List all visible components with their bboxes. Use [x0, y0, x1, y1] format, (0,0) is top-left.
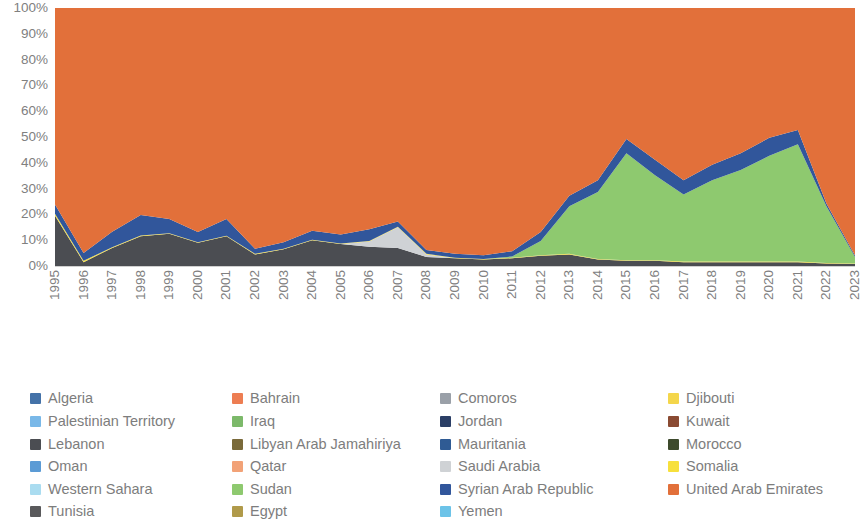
y-axis-tick-label: 100% — [13, 1, 48, 15]
legend-item-label: Western Sahara — [48, 482, 153, 497]
legend-item[interactable]: Lebanon — [30, 437, 104, 452]
legend-swatch-icon — [30, 416, 41, 427]
legend-item-label: Jordan — [458, 414, 502, 429]
x-axis-tick-label: 2002 — [247, 270, 262, 300]
x-axis-tick-label: 2012 — [533, 270, 548, 300]
x-axis-tick-label: 2004 — [304, 270, 319, 300]
legend-item[interactable]: Syrian Arab Republic — [440, 482, 593, 497]
legend-item-label: Somalia — [686, 459, 738, 474]
legend-swatch-icon — [668, 416, 679, 427]
x-axis-tick-label: 1996 — [76, 270, 91, 300]
legend-item-label: Libyan Arab Jamahiriya — [250, 437, 401, 452]
legend-swatch-icon — [668, 484, 679, 495]
legend-item[interactable]: Djibouti — [668, 391, 734, 406]
legend-item[interactable]: Libyan Arab Jamahiriya — [232, 437, 401, 452]
x-axis-tick-label: 2010 — [476, 270, 491, 300]
x-axis-tick-label: 2007 — [390, 270, 405, 300]
x-axis-tick-label: 2003 — [276, 270, 291, 300]
legend-item-label: United Arab Emirates — [686, 482, 823, 497]
x-axis-tick-label: 1995 — [47, 270, 62, 300]
legend-swatch-icon — [440, 484, 451, 495]
legend-item[interactable]: Mauritania — [440, 437, 526, 452]
legend-item[interactable]: Bahrain — [232, 391, 300, 406]
legend-item[interactable]: Somalia — [668, 459, 738, 474]
x-axis-tick-label: 2020 — [761, 270, 776, 300]
x-axis: 1995199619971998199920002001200220032004… — [55, 270, 855, 334]
y-axis-tick-label: 60% — [21, 104, 48, 118]
legend-item-label: Lebanon — [48, 437, 104, 452]
legend-item[interactable]: Oman — [30, 459, 88, 474]
legend-item-label: Qatar — [250, 459, 286, 474]
x-axis-tick-label: 2019 — [733, 270, 748, 300]
legend-item[interactable]: Egypt — [232, 504, 287, 519]
legend-swatch-icon — [232, 506, 243, 517]
legend-item-label: Tunisia — [48, 504, 94, 519]
x-axis-tick-label: 1997 — [104, 270, 119, 300]
legend-item[interactable]: Morocco — [668, 437, 742, 452]
legend-swatch-icon — [440, 506, 451, 517]
x-axis-tick-label: 1998 — [133, 270, 148, 300]
legend-item[interactable]: Algeria — [30, 391, 93, 406]
legend-swatch-icon — [30, 506, 41, 517]
legend-swatch-icon — [232, 416, 243, 427]
y-axis-tick-label: 30% — [21, 182, 48, 196]
legend-swatch-icon — [668, 393, 679, 404]
legend-item[interactable]: Sudan — [232, 482, 292, 497]
legend-swatch-icon — [30, 393, 41, 404]
x-axis-tick-label: 2018 — [704, 270, 719, 300]
y-axis-tick-label: 80% — [21, 53, 48, 67]
legend-item-label: Morocco — [686, 437, 742, 452]
legend-swatch-icon — [30, 484, 41, 495]
legend-item-label: Syrian Arab Republic — [458, 482, 593, 497]
legend-item-label: Kuwait — [686, 414, 730, 429]
x-axis-line — [55, 266, 855, 267]
legend-swatch-icon — [232, 461, 243, 472]
legend-swatch-icon — [440, 461, 451, 472]
x-axis-tick-label: 2009 — [447, 270, 462, 300]
legend-item-label: Iraq — [250, 414, 275, 429]
x-axis-tick-label: 2015 — [618, 270, 633, 300]
legend-item[interactable]: Kuwait — [668, 414, 730, 429]
x-axis-tick-label: 2013 — [561, 270, 576, 300]
legend-swatch-icon — [440, 416, 451, 427]
legend-item-label: Egypt — [250, 504, 287, 519]
legend-item[interactable]: Iraq — [232, 414, 275, 429]
legend-item[interactable]: Western Sahara — [30, 482, 153, 497]
x-axis-tick-label: 2008 — [418, 270, 433, 300]
legend-swatch-icon — [30, 461, 41, 472]
legend-item-label: Yemen — [458, 504, 503, 519]
y-axis: 100%90%80%70%60%50%40%30%20%10%0% — [0, 0, 52, 272]
y-axis-tick-label: 70% — [21, 78, 48, 92]
x-axis-tick-label: 2021 — [790, 270, 805, 300]
plot-wrapper: 100%90%80%70%60%50%40%30%20%10%0% 199519… — [0, 0, 864, 340]
legend-item-label: Algeria — [48, 391, 93, 406]
legend-item-label: Oman — [48, 459, 88, 474]
legend-swatch-icon — [668, 439, 679, 450]
x-axis-tick-label: 2017 — [676, 270, 691, 300]
legend-item-label: Bahrain — [250, 391, 300, 406]
legend-item[interactable]: Qatar — [232, 459, 286, 474]
legend-item-label: Sudan — [250, 482, 292, 497]
legend-swatch-icon — [668, 461, 679, 472]
x-axis-tick-label: 1999 — [161, 270, 176, 300]
x-axis-tick-label: 2014 — [590, 270, 605, 300]
x-axis-tick-label: 2006 — [361, 270, 376, 300]
y-axis-tick-label: 40% — [21, 156, 48, 170]
legend-item[interactable]: Saudi Arabia — [440, 459, 540, 474]
legend-item[interactable]: Tunisia — [30, 504, 94, 519]
legend-item-label: Mauritania — [458, 437, 526, 452]
legend-item[interactable]: United Arab Emirates — [668, 482, 823, 497]
x-axis-tick-label: 2011 — [504, 270, 519, 299]
x-axis-tick-label: 2022 — [818, 270, 833, 300]
legend-item-label: Palestinian Territory — [48, 414, 175, 429]
legend-item-label: Djibouti — [686, 391, 734, 406]
legend-item[interactable]: Comoros — [440, 391, 517, 406]
stacked-area-chart: 100%90%80%70%60%50%40%30%20%10%0% 199519… — [0, 0, 864, 520]
legend-item[interactable]: Palestinian Territory — [30, 414, 175, 429]
legend-item[interactable]: Yemen — [440, 504, 503, 519]
legend-swatch-icon — [232, 393, 243, 404]
legend-swatch-icon — [440, 393, 451, 404]
plot-area — [55, 8, 855, 266]
x-axis-tick-label: 2016 — [647, 270, 662, 300]
legend-item[interactable]: Jordan — [440, 414, 502, 429]
